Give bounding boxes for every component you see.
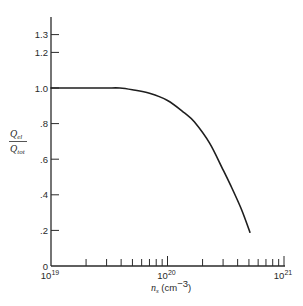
y-title-numerator: Qel xyxy=(10,128,22,141)
y-tick-label: 1.0 xyxy=(35,83,48,94)
y-tick-label: .2 xyxy=(40,225,48,236)
data-curve xyxy=(51,88,250,232)
y-tick-label: 1.3 xyxy=(35,29,48,40)
y-tick-label: .4 xyxy=(40,189,48,200)
x-tick-label: 1021 xyxy=(274,269,292,281)
y-tick-label: .8 xyxy=(40,118,48,129)
y-axis-tick-labels: 1.31.21.0.8.6.4.20 xyxy=(35,29,48,271)
y-axis-ticks xyxy=(51,35,59,231)
y-axis-title: Qel Qtot xyxy=(9,128,27,156)
y-title-denominator: Qtot xyxy=(10,143,26,156)
x-tick-label: 1019 xyxy=(41,269,59,281)
chart: 1.31.21.0.8.6.4.20 101910201021 Qel Qtot… xyxy=(0,0,303,306)
x-axis-ticks xyxy=(86,256,284,266)
x-tick-label: 1020 xyxy=(157,269,175,281)
y-tick-label: 1.2 xyxy=(35,47,48,58)
y-tick-label: .6 xyxy=(40,154,48,165)
x-axis-tick-labels: 101910201021 xyxy=(41,269,292,281)
